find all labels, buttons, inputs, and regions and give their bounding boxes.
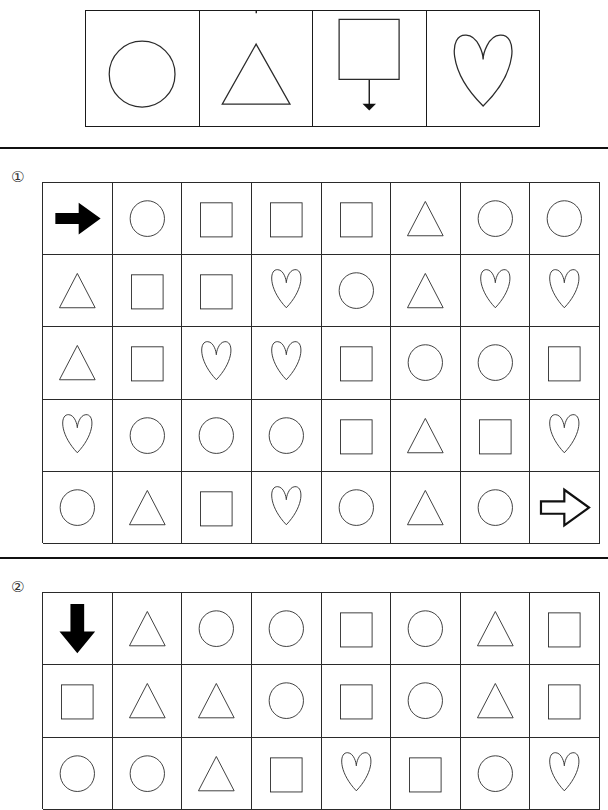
square-icon (530, 665, 599, 736)
circle-icon (461, 183, 530, 254)
arrow-up-icon (249, 11, 263, 13)
grid-cell-heart[interactable] (252, 472, 322, 544)
grid-cell-circle[interactable] (391, 665, 461, 737)
grid-cell-triangle[interactable] (43, 255, 113, 327)
square-icon (43, 665, 112, 736)
grid-cell-circle[interactable] (461, 183, 531, 255)
circle-icon (43, 472, 112, 543)
grid-cell-circle[interactable] (43, 738, 113, 810)
grid-cell-circle[interactable] (461, 738, 531, 810)
grid-cell-triangle[interactable] (182, 738, 252, 810)
grid-cell-circle[interactable] (252, 593, 322, 665)
triangle-icon (113, 593, 182, 664)
triangle-icon (43, 327, 112, 398)
grid-cell-circle[interactable] (113, 738, 183, 810)
arrow-down-solid-icon (43, 593, 112, 664)
arrow-down-icon (363, 79, 377, 110)
square-icon (322, 183, 391, 254)
grid-cell-square[interactable] (182, 472, 252, 544)
square-icon (322, 327, 391, 398)
grid-cell-triangle[interactable] (461, 593, 531, 665)
circle-icon (322, 472, 391, 543)
circle-icon (530, 183, 599, 254)
grid-cell-square[interactable] (461, 400, 531, 472)
grid-cell-triangle[interactable] (391, 183, 461, 255)
circle-icon (113, 400, 182, 471)
square-icon (530, 327, 599, 398)
grid-cell-heart[interactable] (530, 255, 600, 327)
grid-cell-circle[interactable] (322, 472, 392, 544)
grid-row (43, 472, 600, 544)
grid-cell-circle[interactable] (252, 665, 322, 737)
grid-cell-heart[interactable] (322, 738, 392, 810)
grid-cell-square[interactable] (322, 183, 392, 255)
grid-row (43, 327, 600, 399)
heart-icon (252, 255, 321, 326)
square-shape (339, 19, 399, 79)
square-icon (313, 11, 426, 126)
grid-cell-circle[interactable] (113, 183, 183, 255)
circle-icon (113, 183, 182, 254)
grid-cell-square[interactable] (530, 665, 600, 737)
grid-cell-triangle[interactable] (113, 472, 183, 544)
grid-cell-circle[interactable] (461, 327, 531, 399)
grid-cell-circle[interactable] (43, 472, 113, 544)
grid-cell-circle[interactable] (530, 183, 600, 255)
grid-cell-triangle[interactable] (391, 255, 461, 327)
grid-cell-circle[interactable] (182, 400, 252, 472)
grid-cell-triangle[interactable] (182, 665, 252, 737)
grid-cell-square[interactable] (252, 738, 322, 810)
grid-cell-circle[interactable] (182, 593, 252, 665)
grid-cell-triangle[interactable] (113, 665, 183, 737)
grid-cell-arrow-right-hollow[interactable] (530, 472, 600, 544)
grid-cell-heart[interactable] (461, 255, 531, 327)
grid-cell-square[interactable] (113, 327, 183, 399)
grid-cell-circle[interactable] (391, 327, 461, 399)
grid-cell-square[interactable] (530, 327, 600, 399)
grid-cell-square[interactable] (182, 255, 252, 327)
square-icon (113, 255, 182, 326)
circle-icon (182, 400, 251, 471)
circle-icon (461, 472, 530, 543)
grid-cell-square[interactable] (530, 593, 600, 665)
grid-cell-triangle[interactable] (391, 472, 461, 544)
grid-cell-circle[interactable] (252, 400, 322, 472)
heart-icon (252, 472, 321, 543)
grid-row (43, 255, 600, 327)
grid-cell-heart[interactable] (182, 327, 252, 399)
circle-icon (391, 327, 460, 398)
grid-cell-square[interactable] (391, 738, 461, 810)
legend-cell-heart (427, 11, 540, 126)
shape-grid-1 (42, 182, 600, 543)
grid-cell-heart[interactable] (252, 255, 322, 327)
grid-cell-circle[interactable] (391, 593, 461, 665)
grid-cell-circle[interactable] (461, 472, 531, 544)
grid-cell-triangle[interactable] (391, 400, 461, 472)
grid-cell-square[interactable] (252, 183, 322, 255)
grid-cell-heart[interactable] (530, 400, 600, 472)
grid-cell-heart[interactable] (252, 327, 322, 399)
shape-grid-2 (42, 592, 600, 809)
grid-cell-heart[interactable] (43, 400, 113, 472)
grid-cell-triangle[interactable] (43, 327, 113, 399)
grid-cell-circle[interactable] (322, 255, 392, 327)
grid-cell-circle[interactable] (113, 400, 183, 472)
grid-cell-heart[interactable] (530, 738, 600, 810)
grid-cell-square[interactable] (322, 327, 392, 399)
grid-cell-triangle[interactable] (113, 593, 183, 665)
grid-cell-arrow-down-solid[interactable] (43, 593, 113, 665)
grid-cell-square[interactable] (43, 665, 113, 737)
legend-cell-circle (86, 11, 200, 126)
circle-shape (109, 41, 175, 107)
grid-cell-square[interactable] (322, 665, 392, 737)
heart-icon (530, 738, 599, 809)
grid-cell-square[interactable] (113, 255, 183, 327)
grid-cell-triangle[interactable] (461, 665, 531, 737)
grid-row (43, 183, 600, 255)
heart-icon (322, 738, 391, 809)
grid-cell-arrow-right-solid[interactable] (43, 183, 113, 255)
triangle-icon (461, 593, 530, 664)
grid-cell-square[interactable] (182, 183, 252, 255)
grid-cell-square[interactable] (322, 593, 392, 665)
grid-cell-square[interactable] (322, 400, 392, 472)
